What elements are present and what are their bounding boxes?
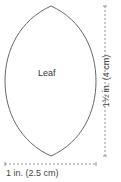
leaf-label: Leaf <box>38 68 56 78</box>
leaf-outline <box>5 6 96 156</box>
height-dimension-label: 1½ in. (4 cm) <box>101 55 111 108</box>
width-dimension-label: 1 in. (2.5 cm) <box>6 168 59 178</box>
